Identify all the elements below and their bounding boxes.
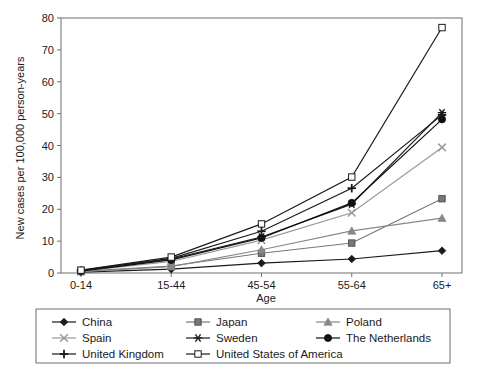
y-tick-label: 80 <box>42 12 54 24</box>
y-tick-label: 20 <box>42 203 54 215</box>
legend-label: Spain <box>82 332 111 344</box>
data-point <box>348 199 355 206</box>
y-tick-label: 40 <box>42 140 54 152</box>
legend-label: Poland <box>346 316 382 328</box>
data-point <box>258 221 264 227</box>
x-tick-label: 15-44 <box>157 279 185 291</box>
legend-label: The Netherlands <box>346 332 431 344</box>
data-point <box>168 254 174 260</box>
line-chart: 01020304050607080 0-1415-4445-5455-6465+… <box>0 0 484 376</box>
x-axis: 0-1415-4445-5455-6465+ <box>70 273 451 291</box>
chart-figure: 01020304050607080 0-1415-4445-5455-6465+… <box>0 0 484 376</box>
data-point <box>439 24 445 30</box>
data-point <box>439 196 445 202</box>
y-tick-label: 60 <box>42 76 54 88</box>
x-tick-label: 45-54 <box>247 279 275 291</box>
legend-label: United Kingdom <box>82 348 164 360</box>
y-tick-label: 0 <box>48 267 54 279</box>
legend-label: China <box>82 316 113 328</box>
chart-legend: ChinaJapanPolandSpainSwedenThe Netherlan… <box>36 309 450 363</box>
y-tick-label: 70 <box>42 44 54 56</box>
y-axis-title: New cases per 100,000 person-years <box>14 56 26 239</box>
x-tick-label: 0-14 <box>70 279 92 291</box>
legend-label: Sweden <box>216 332 258 344</box>
legend-marker <box>195 319 201 325</box>
y-tick-label: 30 <box>42 171 54 183</box>
y-tick-label: 10 <box>42 235 54 247</box>
data-point <box>349 240 355 246</box>
x-tick-label: 55-64 <box>338 279 366 291</box>
legend-label: United States of America <box>216 348 343 360</box>
x-tick-label: 65+ <box>433 279 452 291</box>
legend-label: Japan <box>216 316 247 328</box>
legend-marker <box>195 351 201 357</box>
x-axis-title: Age <box>256 292 276 304</box>
data-point <box>349 174 355 180</box>
data-point <box>78 267 84 273</box>
y-axis: 01020304050607080 <box>42 12 61 279</box>
legend-marker <box>324 334 331 341</box>
y-tick-label: 50 <box>42 108 54 120</box>
